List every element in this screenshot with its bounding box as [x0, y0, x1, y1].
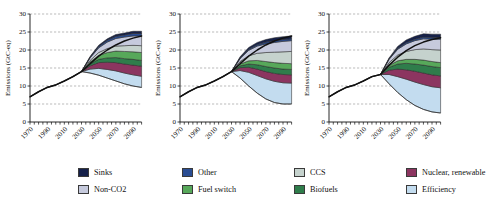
legend-swatch-sinks — [78, 168, 89, 177]
legend-swatch-nuclear-renewable — [406, 168, 417, 177]
legend-label-sinks: Sinks — [94, 168, 112, 177]
y-ticks-1: 051015202530 — [19, 10, 30, 126]
svg-text:15: 15 — [169, 64, 177, 72]
svg-text:2070: 2070 — [255, 125, 271, 141]
svg-text:30: 30 — [169, 10, 177, 18]
svg-text:2050: 2050 — [238, 125, 254, 141]
legend-swatch-other — [182, 168, 193, 177]
svg-text:2070: 2070 — [105, 125, 121, 141]
svg-text:5: 5 — [172, 100, 176, 108]
wedges-1 — [82, 31, 142, 87]
svg-text:0: 0 — [172, 118, 176, 126]
legend-label-other: Other — [198, 168, 217, 177]
x-tick-labels-3: 1970199020102030205020702090 — [319, 125, 438, 141]
y-ticks-2: 051015202530 — [169, 10, 180, 126]
svg-text:10: 10 — [19, 82, 27, 90]
svg-text:10: 10 — [169, 82, 177, 90]
svg-text:1970: 1970 — [319, 125, 335, 141]
legend-swatch-ccs — [294, 168, 305, 177]
svg-text:30: 30 — [19, 10, 27, 18]
svg-text:2090: 2090 — [122, 125, 138, 141]
legend-item-biofuels: Biofuels — [294, 181, 406, 198]
svg-text:2010: 2010 — [54, 125, 70, 141]
svg-text:20: 20 — [318, 46, 326, 54]
svg-text:1970: 1970 — [19, 125, 35, 141]
svg-text:1970: 1970 — [169, 125, 185, 141]
svg-text:2090: 2090 — [422, 125, 438, 141]
svg-text:25: 25 — [169, 28, 177, 36]
svg-text:2010: 2010 — [353, 125, 369, 141]
svg-text:0: 0 — [322, 118, 326, 126]
chart-panel-3: 0510152025301970199020102030205020702090… — [299, 0, 449, 160]
legend-item-nuclear-renewable: Nuclear, renewable — [406, 164, 490, 181]
wedges-3 — [381, 34, 441, 113]
svg-text:25: 25 — [19, 28, 27, 36]
svg-text:2050: 2050 — [387, 125, 403, 141]
svg-text:2010: 2010 — [203, 125, 219, 141]
y-ticks-3: 051015202530 — [318, 10, 329, 126]
legend-swatch-efficiency — [406, 185, 417, 194]
svg-text:15: 15 — [318, 64, 326, 72]
svg-text:1990: 1990 — [186, 125, 202, 141]
svg-text:20: 20 — [169, 46, 177, 54]
svg-text:5: 5 — [322, 100, 326, 108]
legend-label-efficiency: Efficiency — [422, 185, 456, 194]
legend-item-non-co2: Non-CO2 — [78, 181, 182, 198]
chart-panels: 0510152025301970199020102030205020702090… — [0, 0, 449, 160]
legend-swatch-fuel-switch — [182, 185, 193, 194]
svg-text:25: 25 — [318, 28, 326, 36]
legend-label-non-co2: Non-CO2 — [94, 185, 126, 194]
legend-swatch-non-co2 — [78, 185, 89, 194]
x-tick-labels-2: 1970199020102030205020702090 — [169, 125, 288, 141]
y-axis-title-1: Emissions (GtC-eq) — [4, 39, 12, 95]
svg-text:1990: 1990 — [336, 125, 352, 141]
chart-svg-2: 0510152025301970199020102030205020702090… — [150, 0, 300, 160]
legend-label-nuclear-renewable: Nuclear, renewable — [422, 168, 485, 177]
chart-panel-1: 0510152025301970199020102030205020702090… — [0, 0, 150, 160]
y-axis-title-2: Emissions (GtC-eq) — [153, 39, 161, 95]
svg-text:5: 5 — [23, 100, 27, 108]
wedges-2 — [231, 36, 291, 104]
svg-text:15: 15 — [19, 64, 27, 72]
legend-item-other: Other — [182, 164, 294, 181]
legend-item-ccs: CCS — [294, 164, 406, 181]
svg-text:30: 30 — [318, 10, 326, 18]
legend-item-efficiency: Efficiency — [406, 181, 490, 198]
legend-grid: Sinks Other CCS Nuclear, renewable Non-C… — [78, 164, 490, 198]
legend-item-fuel-switch: Fuel switch — [182, 181, 294, 198]
legend-label-ccs: CCS — [310, 168, 325, 177]
svg-text:0: 0 — [23, 118, 27, 126]
svg-text:2030: 2030 — [71, 125, 87, 141]
svg-text:2030: 2030 — [370, 125, 386, 141]
chart-svg-3: 0510152025301970199020102030205020702090… — [299, 0, 449, 160]
legend-label-biofuels: Biofuels — [310, 185, 338, 194]
svg-text:2070: 2070 — [404, 125, 420, 141]
chart-legend: Sinks Other CCS Nuclear, renewable Non-C… — [0, 160, 449, 210]
chart-svg-1: 0510152025301970199020102030205020702090… — [0, 0, 150, 160]
svg-text:2090: 2090 — [272, 125, 288, 141]
svg-text:2030: 2030 — [220, 125, 236, 141]
legend-item-sinks: Sinks — [78, 164, 182, 181]
svg-text:1990: 1990 — [37, 125, 53, 141]
svg-text:2050: 2050 — [88, 125, 104, 141]
chart-panel-2: 0510152025301970199020102030205020702090… — [150, 0, 300, 160]
y-axis-title-3: Emissions (GtC-eq) — [303, 39, 311, 95]
legend-swatch-biofuels — [294, 185, 305, 194]
svg-text:10: 10 — [318, 82, 326, 90]
legend-label-fuel-switch: Fuel switch — [198, 185, 236, 194]
x-tick-labels-1: 1970199020102030205020702090 — [19, 125, 138, 141]
svg-text:20: 20 — [19, 46, 27, 54]
